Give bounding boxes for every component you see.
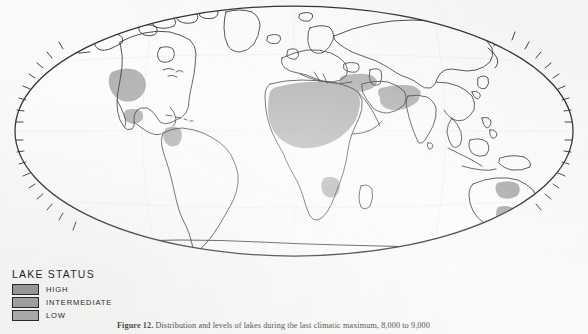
- legend-label-low: LOW: [46, 311, 66, 320]
- figure-number: Figure 12.: [117, 321, 153, 330]
- coast-antarctic-peninsula: [199, 250, 215, 265]
- coast-tasmania: [504, 233, 513, 241]
- legend-swatch-high: [12, 284, 39, 295]
- legend-label-high: HIGH: [46, 285, 68, 294]
- figure-caption-text: Distribution and levels of lakes during …: [155, 321, 429, 330]
- legend-item-intermediate: INTERMEDIATE: [12, 296, 112, 309]
- shaded-northern-australia: [496, 181, 520, 199]
- figure-page: LAKE STATUS HIGH INTERMEDIATE LOW Figure…: [0, 0, 588, 334]
- legend-swatch-low: [12, 310, 39, 321]
- figure-caption: Figure 12. Distribution and levels of la…: [117, 320, 583, 331]
- legend-item-low: LOW: [12, 309, 112, 322]
- legend-swatch-intermediate: [12, 297, 39, 308]
- legend-label-intermediate: INTERMEDIATE: [46, 298, 112, 307]
- world-map-svg: [0, 0, 588, 270]
- legend: LAKE STATUS HIGH INTERMEDIATE LOW: [12, 268, 112, 322]
- legend-item-high: HIGH: [12, 283, 112, 296]
- legend-title: LAKE STATUS: [12, 268, 112, 280]
- coast-new-zealand: [553, 212, 567, 236]
- world-map-figure: [0, 0, 588, 270]
